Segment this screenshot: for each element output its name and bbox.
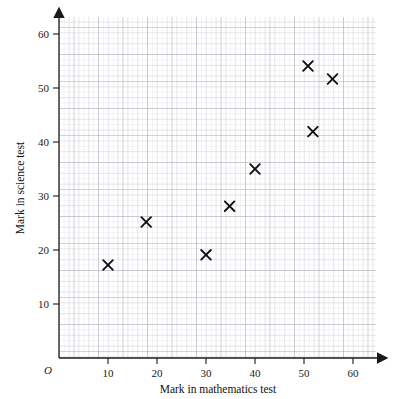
scatter-plot-figure: 10 20 30 40 50 60 10 20 30 40 50 60 O (0, 0, 397, 399)
y-tick-label-30: 30 (38, 190, 50, 202)
y-tick-label-40: 40 (38, 136, 50, 148)
x-tick-label-10: 10 (103, 367, 115, 379)
y-axis-ticks (53, 34, 59, 304)
x-axis-tick-labels: 10 20 30 40 50 60 (103, 367, 360, 379)
y-axis-title: Mark in science test (14, 141, 26, 234)
y-tick-label-20: 20 (38, 244, 50, 256)
x-tick-label-20: 20 (152, 367, 164, 379)
x-tick-label-60: 60 (348, 367, 360, 379)
y-axis-tick-labels: 10 20 30 40 50 60 (38, 28, 50, 310)
cut-off-header-text (40, 0, 360, 7)
y-tick-label-50: 50 (38, 82, 50, 94)
x-tick-label-30: 30 (201, 367, 213, 379)
x-tick-label-40: 40 (250, 367, 262, 379)
y-tick-label-10: 10 (38, 298, 50, 310)
x-axis-ticks (108, 358, 353, 364)
x-tick-label-50: 50 (299, 367, 311, 379)
x-axis-title: Mark in mathematics test (160, 383, 277, 395)
origin-label: O (44, 364, 52, 376)
grid-area (59, 17, 376, 358)
y-tick-label-60: 60 (38, 28, 50, 40)
plot-canvas: 10 20 30 40 50 60 10 20 30 40 50 60 O (0, 0, 397, 399)
